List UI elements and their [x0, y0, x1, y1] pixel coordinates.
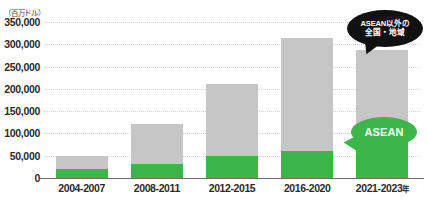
- stacked-bar[interactable]: [206, 84, 258, 178]
- callout-asean: ASEAN: [351, 117, 417, 147]
- callout-asean-label: ASEAN: [364, 126, 403, 139]
- y-tick-label: 200,000: [0, 83, 40, 95]
- callout-other-regions: ASEAN以外の 全国・地域: [347, 10, 423, 47]
- stacked-bar[interactable]: [356, 50, 408, 178]
- bar-segment-other: [131, 124, 183, 164]
- x-tick-label: 2012-2015: [194, 182, 269, 194]
- stacked-bar[interactable]: [281, 38, 333, 178]
- callout-other-line-2: 全国・地域: [361, 29, 410, 38]
- y-axis-tick-labels: 350,000 300,000 250,000 200,000 150,000 …: [0, 0, 40, 203]
- y-tick-label: 250,000: [0, 61, 40, 73]
- y-tick-label: 100,000: [0, 127, 40, 139]
- stacked-bar[interactable]: [56, 156, 108, 178]
- bar-segment-other: [281, 38, 333, 152]
- bar-segment-asean: [281, 151, 333, 178]
- bar-slot: [194, 22, 269, 178]
- bar-slot: [119, 22, 194, 178]
- x-tick-label: 2016-2020: [270, 182, 345, 194]
- stacked-bar[interactable]: [131, 124, 183, 178]
- bar-slot: [44, 22, 119, 178]
- y-tick-label: 0: [0, 172, 40, 184]
- y-tick-label: 50,000: [0, 150, 40, 162]
- y-tick-label: 300,000: [0, 38, 40, 50]
- y-tick-label: 150,000: [0, 105, 40, 117]
- bar-segment-other: [206, 84, 258, 155]
- bar-slot: [270, 22, 345, 178]
- y-tick-label: 350,000: [0, 16, 40, 28]
- bar-segment-asean: [131, 164, 183, 178]
- x-tick-label: 2004-2007: [44, 182, 119, 194]
- x-axis-line: [40, 178, 424, 179]
- chart-container: （百万ドル） 350,000 300,000 250,000 200,000 1…: [0, 0, 428, 203]
- x-tick-label: 2008-2011: [119, 182, 194, 194]
- x-axis-tick-labels: 2004-2007 2008-2011 2012-2015 2016-2020 …: [44, 182, 420, 194]
- x-tick-label: 2021-2023年: [345, 182, 420, 194]
- bar-segment-other: [56, 156, 108, 169]
- bar-segment-asean: [56, 169, 108, 178]
- bar-segment-asean: [206, 156, 258, 178]
